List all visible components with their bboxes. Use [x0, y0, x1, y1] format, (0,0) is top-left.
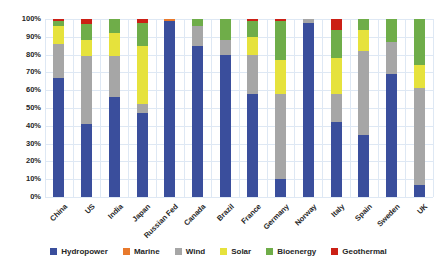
x-axis-category-label: Italy — [329, 202, 346, 219]
bar-segment-solar — [53, 26, 64, 44]
bar-russian-fed — [164, 19, 175, 197]
y-axis-tick-label: 0% — [3, 193, 41, 201]
legend-item-marine: Marine — [123, 247, 160, 256]
bar-segment-solar — [81, 40, 92, 56]
legend-item-wind: Wind — [175, 247, 205, 256]
x-axis-category-label: China — [48, 202, 69, 223]
gridline-vertical — [378, 19, 379, 197]
gridline-vertical — [267, 19, 268, 197]
x-axis-category-label: Canada — [182, 202, 208, 228]
bar-segment-hydropower — [414, 185, 425, 197]
legend-label: Marine — [134, 247, 160, 256]
gridline-vertical — [211, 19, 212, 197]
bar-norway — [303, 19, 314, 197]
bar-segment-bioenergy — [358, 19, 369, 30]
bar-segment-solar — [331, 58, 342, 94]
bar-segment-geothermal — [331, 19, 342, 30]
bar-segment-wind — [137, 104, 148, 113]
bar-japan — [137, 19, 148, 197]
bar-segment-bioenergy — [331, 30, 342, 58]
bar-segment-wind — [53, 44, 64, 78]
bar-segment-hydropower — [358, 135, 369, 197]
legend-label: Hydropower — [61, 247, 108, 256]
x-axis-category-label: Japan — [131, 202, 153, 224]
legend-swatch-hydropower — [50, 248, 57, 255]
bar-segment-wind — [247, 55, 258, 94]
bar-segment-bioenergy — [275, 21, 286, 60]
gridline-vertical — [100, 19, 101, 197]
bar-segment-bioenergy — [220, 19, 231, 40]
bar-segment-hydropower — [303, 23, 314, 197]
y-axis-tick-label: 50% — [3, 104, 41, 112]
bar-sweden — [386, 19, 397, 197]
bar-segment-hydropower — [109, 97, 120, 197]
gridline-vertical — [73, 19, 74, 197]
bar-segment-bioenergy — [81, 24, 92, 40]
legend-label: Geothermal — [342, 247, 386, 256]
gridline-horizontal — [45, 197, 433, 198]
bar-germany — [275, 19, 286, 197]
gridline-vertical — [239, 19, 240, 197]
bar-segment-hydropower — [275, 179, 286, 197]
bar-segment-hydropower — [220, 55, 231, 197]
legend-label: Bioenergy — [277, 247, 316, 256]
bar-segment-wind — [81, 56, 92, 124]
bar-segment-wind — [109, 56, 120, 97]
y-axis-tick-label: 30% — [3, 140, 41, 148]
bar-segment-wind — [414, 88, 425, 184]
y-axis-tick-label: 60% — [3, 86, 41, 94]
bar-segment-solar — [137, 46, 148, 105]
x-axis-category-label: UK — [415, 202, 429, 216]
gridline-vertical — [294, 19, 295, 197]
legend-swatch-geothermal — [331, 248, 338, 255]
y-axis-tick-label: 70% — [3, 68, 41, 76]
bar-segment-wind — [358, 51, 369, 135]
bar-segment-hydropower — [331, 122, 342, 197]
legend-item-geothermal: Geothermal — [331, 247, 386, 256]
bar-spain — [358, 19, 369, 197]
bar-segment-wind — [220, 40, 231, 54]
bar-segment-solar — [358, 30, 369, 51]
bar-segment-hydropower — [164, 21, 175, 197]
x-axis-category-label: Germany — [262, 202, 291, 231]
bar-italy — [331, 19, 342, 197]
bar-segment-bioenergy — [109, 19, 120, 33]
y-axis-tick-label: 80% — [3, 51, 41, 59]
bar-segment-solar — [109, 33, 120, 56]
bar-segment-hydropower — [137, 113, 148, 197]
bar-china — [53, 19, 64, 197]
plot-area — [45, 19, 433, 197]
legend-item-solar: Solar — [220, 247, 251, 256]
stacked-bar-chart: 0%10%20%30%40%50%60%70%80%90%100% ChinaU… — [0, 0, 437, 274]
bar-segment-hydropower — [53, 78, 64, 197]
gridline-vertical — [128, 19, 129, 197]
x-axis-category-label: Brazil — [215, 202, 236, 223]
bar-segment-solar — [275, 60, 286, 94]
y-axis-tick-label: 40% — [3, 122, 41, 130]
gridline-vertical — [45, 19, 46, 197]
x-axis-category-label: Sweden — [375, 202, 401, 228]
x-axis-category-label: France — [239, 202, 263, 226]
bar-france — [247, 19, 258, 197]
x-axis-category-label: Spain — [353, 202, 374, 223]
y-axis-tick-label: 10% — [3, 175, 41, 183]
bar-segment-wind — [275, 94, 286, 179]
bar-segment-hydropower — [192, 46, 203, 197]
bar-segment-solar — [414, 65, 425, 88]
gridline-vertical — [405, 19, 406, 197]
bar-segment-hydropower — [81, 124, 92, 197]
gridline-vertical — [433, 19, 434, 197]
bar-segment-bioenergy — [137, 23, 148, 46]
legend-item-hydropower: Hydropower — [50, 247, 108, 256]
bar-us — [81, 19, 92, 197]
y-axis-tick-label: 100% — [3, 15, 41, 23]
bar-india — [109, 19, 120, 197]
y-axis-tick-label: 20% — [3, 157, 41, 165]
bar-segment-wind — [331, 94, 342, 122]
legend: HydropowerMarineWindSolarBioenergyGeothe… — [0, 247, 437, 256]
legend-swatch-wind — [175, 248, 182, 255]
legend-item-bioenergy: Bioenergy — [266, 247, 316, 256]
bar-canada — [192, 19, 203, 197]
x-axis-category-label: India — [106, 202, 125, 221]
gridline-vertical — [350, 19, 351, 197]
